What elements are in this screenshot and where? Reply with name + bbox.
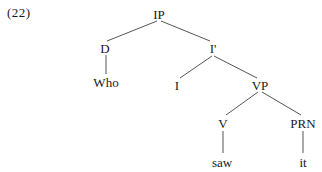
node-prn: PRN (290, 117, 315, 130)
syntax-tree-diagram: (22) IP D Who I' I VP V PRN saw it (0, 0, 322, 172)
node-who: Who (93, 76, 118, 89)
node-d: D (100, 42, 109, 55)
node-ibar: I' (210, 42, 217, 55)
node-it: it (299, 156, 306, 169)
edge-ibar-i (180, 56, 212, 78)
node-i: I (175, 79, 179, 92)
node-ip: IP (153, 8, 165, 21)
edge-ibar-vp (214, 56, 257, 78)
edge-ip-d (107, 21, 157, 41)
edge-ip-ibar (161, 21, 210, 41)
edge-vp-v (226, 92, 258, 115)
node-saw: saw (212, 156, 232, 169)
node-v: V (218, 117, 227, 130)
edge-vp-prn (262, 92, 301, 115)
tree-edges (0, 0, 322, 172)
node-vp: VP (252, 79, 269, 92)
